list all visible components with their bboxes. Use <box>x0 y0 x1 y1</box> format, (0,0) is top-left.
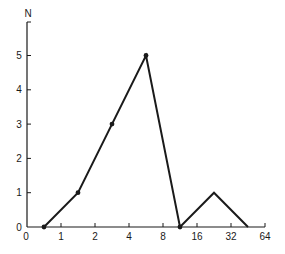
x-tick-label: 4 <box>126 231 132 242</box>
x-tick-label: 16 <box>191 231 203 242</box>
x-tick-label: 1 <box>58 231 64 242</box>
y-tick-label: 5 <box>16 50 22 61</box>
data-point <box>42 225 47 230</box>
data-line <box>44 56 248 228</box>
y-tick-label: 0 <box>16 222 22 233</box>
data-point <box>110 122 115 127</box>
chart: N 012345 01248163264 <box>0 0 285 254</box>
x-tick-label: 0 <box>23 231 29 242</box>
data-markers <box>42 53 183 229</box>
data-point <box>76 190 81 195</box>
x-tick-label: 32 <box>225 231 237 242</box>
y-ticks: 012345 <box>16 50 31 233</box>
y-tick-label: 1 <box>16 187 22 198</box>
data-point <box>178 225 183 230</box>
y-tick-label: 3 <box>16 119 22 130</box>
x-tick-label: 64 <box>259 231 271 242</box>
y-axis-label: N <box>24 8 31 19</box>
x-tick-label: 2 <box>92 231 98 242</box>
x-ticks: 01248163264 <box>23 223 271 242</box>
x-tick-label: 8 <box>160 231 166 242</box>
y-tick-label: 2 <box>16 153 22 164</box>
data-point <box>144 53 149 58</box>
y-tick-label: 4 <box>16 84 22 95</box>
